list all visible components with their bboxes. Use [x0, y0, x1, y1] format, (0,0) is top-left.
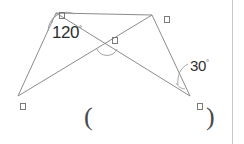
- angle-value-120: 120: [52, 23, 79, 42]
- tofu-box-glyph: [112, 37, 118, 44]
- edge-top: [56, 13, 152, 15]
- degree-symbol: °: [206, 58, 209, 67]
- vertex-label-top-right: [155, 8, 170, 32]
- answer-open-paren: (: [84, 104, 93, 130]
- intersection-point-label: [103, 29, 118, 53]
- tofu-box-glyph: [164, 16, 170, 23]
- diagonal-bottomleft-topright: [18, 15, 152, 96]
- degree-symbol: °: [79, 24, 82, 33]
- answer-close-paren: ): [206, 104, 215, 130]
- tofu-box-glyph: [59, 12, 65, 19]
- answer-blank-row: ( ): [0, 104, 232, 138]
- angle-label-30-degrees: 30°: [190, 58, 209, 73]
- angle-value-30: 30: [190, 57, 206, 74]
- right-border-rule: [232, 0, 233, 144]
- angle-label-120-degrees: 120°: [52, 24, 82, 41]
- geometry-figure: 120° 30° ( ): [0, 0, 244, 144]
